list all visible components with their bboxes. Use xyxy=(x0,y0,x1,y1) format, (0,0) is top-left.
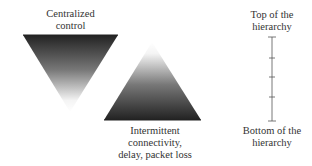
label-line: Top of the xyxy=(236,9,308,21)
label-line: Intermittent xyxy=(100,125,210,137)
top-of-hierarchy-label: Top of the hierarchy xyxy=(236,9,308,33)
label-line: control xyxy=(23,20,118,32)
label-line: hierarchy xyxy=(236,21,308,33)
centralized-control-label: Centralized control xyxy=(23,8,118,32)
upright-triangle xyxy=(104,42,201,120)
inverted-triangle xyxy=(23,35,118,112)
label-line: hierarchy xyxy=(232,137,312,149)
bottom-of-hierarchy-label: Bottom of the hierarchy xyxy=(232,125,312,149)
label-line: Centralized xyxy=(23,8,118,20)
intermittent-connectivity-label: Intermittent connectivity, delay, packet… xyxy=(100,125,210,161)
label-line: delay, packet loss xyxy=(100,149,210,161)
hierarchy-axis xyxy=(268,37,276,121)
label-line: connectivity, xyxy=(100,137,210,149)
label-line: Bottom of the xyxy=(232,125,312,137)
